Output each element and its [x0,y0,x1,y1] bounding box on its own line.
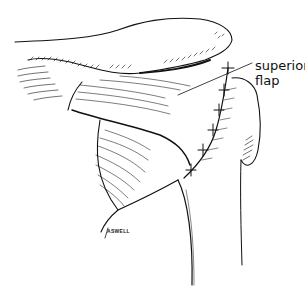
label-line-1: superior [255,58,305,73]
label-line-2: flap [255,73,305,88]
superior-flap-label: superior flap [255,58,305,88]
artist-signature: ASWELL [107,228,130,234]
shoulder-illustration [0,0,305,298]
illustration-canvas: superior flap ASWELL [0,0,305,298]
